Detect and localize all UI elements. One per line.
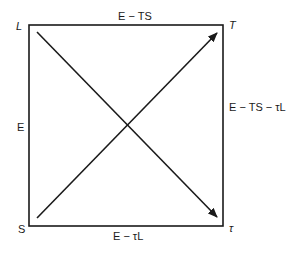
edge-label-top: E − TS	[118, 10, 152, 22]
edge-label-right: E − TS − τL	[229, 101, 286, 113]
corner-label-top-left: L	[16, 20, 22, 32]
edge-label-bottom: E − τL	[113, 230, 143, 242]
corner-label-bottom-right: τ	[229, 222, 233, 234]
legendre-transform-square: L T S τ E − TS E − τL E E − TS − τL	[0, 0, 298, 254]
square-with-diagonals	[0, 0, 298, 254]
corner-label-top-right: T	[229, 19, 236, 31]
corner-label-bottom-left: S	[18, 223, 25, 235]
edge-label-left: E	[17, 121, 24, 133]
